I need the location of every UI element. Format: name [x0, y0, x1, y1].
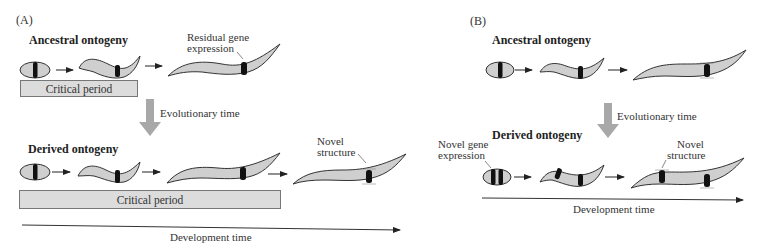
- a-novel-structure-label: Novel structure: [317, 136, 355, 158]
- b-ancestral-heading: Ancestral ontogeny: [492, 33, 591, 48]
- a-derived-critical-period: Critical period: [19, 190, 281, 209]
- b-derived-adult: [631, 158, 744, 188]
- a-ancestral-critical-period: Critical period: [20, 80, 138, 97]
- a-derived-larva: [78, 162, 140, 183]
- a-ancestral-embryo: [20, 62, 50, 78]
- a-ancestral-larva: [79, 56, 140, 78]
- b-derived-embryo: [483, 169, 511, 185]
- panel-a-label: (A): [16, 13, 33, 28]
- annotation-leader: [358, 154, 366, 163]
- a-evolutionary-arrow: [139, 99, 161, 136]
- a-derived-juvenile: [167, 153, 280, 183]
- a-development-time-label: Development time: [170, 231, 252, 243]
- a-residual-gene-expression-label: Residual gene expression: [187, 32, 249, 54]
- b-ancestral-embryo: [486, 62, 514, 78]
- b-evolutionary-time-label: Evolutionary time: [617, 110, 697, 122]
- b-development-time-axis: [482, 198, 743, 200]
- a-derived-embryo: [20, 164, 50, 180]
- b-ancestral-larva: [540, 58, 604, 79]
- b-novel-structure-label: Novel structure: [667, 139, 705, 161]
- panel-b-label: (B): [470, 14, 486, 29]
- a-development-time-axis: [22, 225, 400, 230]
- a-derived-heading: Derived ontogeny: [28, 142, 118, 157]
- b-evolutionary-arrow: [597, 103, 619, 138]
- a-evolutionary-time-label: Evolutionary time: [160, 107, 240, 119]
- b-development-time-label: Development time: [573, 203, 655, 215]
- a-derived-adult: [293, 154, 406, 184]
- b-derived-heading: Derived ontogeny: [492, 128, 582, 143]
- b-novel-gene-expression-label: Novel gene expression: [438, 139, 488, 161]
- a-ancestral-heading: Ancestral ontogeny: [29, 33, 128, 48]
- b-ancestral-adult: [633, 50, 746, 80]
- annotation-leader: [662, 160, 666, 168]
- annotation-leader: [485, 161, 491, 168]
- b-derived-larva: [540, 165, 604, 186]
